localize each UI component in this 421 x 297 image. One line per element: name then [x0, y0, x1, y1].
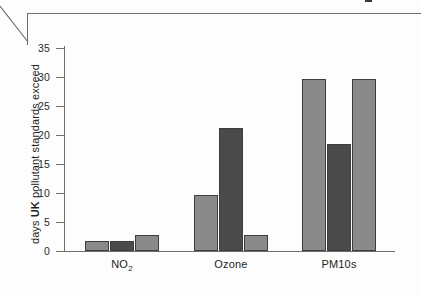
- bar-chart: days UK pollutant standards exceed 05101…: [0, 0, 421, 297]
- bar-group-pm10s: [302, 46, 377, 251]
- bar-ozone-series-1[interactable]: [194, 195, 218, 251]
- y-tick-label-20: 20: [10, 130, 50, 141]
- bar-ozone-series-2[interactable]: [219, 128, 243, 251]
- x-label-subscript: 2: [128, 264, 133, 273]
- bar-no2-series-2[interactable]: [110, 241, 134, 251]
- bar-ozone-series-3[interactable]: [244, 235, 268, 251]
- y-tick-label-10: 10: [10, 188, 50, 199]
- y-tick-label-30: 30: [10, 72, 50, 83]
- y-tick-0: [56, 251, 64, 252]
- x-label-ozone: Ozone: [181, 258, 281, 270]
- bar-pm10s-series-3[interactable]: [352, 79, 376, 251]
- bar-pm10s-series-1[interactable]: [302, 79, 326, 251]
- x-axis-line: [64, 251, 395, 252]
- y-tick-label-0: 0: [10, 246, 50, 257]
- y-tick-15: [56, 164, 64, 165]
- bar-pm10s-series-2[interactable]: [327, 144, 351, 251]
- x-label-pm10s: PM10s: [289, 258, 389, 270]
- bar-group-ozone: [194, 46, 269, 251]
- y-tick-30: [56, 77, 64, 78]
- bar-no2-series-3[interactable]: [135, 235, 159, 251]
- y-axis-title-bold: UK: [29, 201, 41, 217]
- y-tick-label-35: 35: [10, 43, 50, 54]
- y-tick-label-25: 25: [10, 101, 50, 112]
- y-tick-label-5: 5: [10, 217, 50, 228]
- y-tick-label-15: 15: [10, 159, 50, 170]
- x-label-no2: NO2: [72, 258, 172, 270]
- y-tick-10: [56, 193, 64, 194]
- figure-root: days UK pollutant standards exceed 05101…: [0, 0, 421, 297]
- y-tick-20: [56, 135, 64, 136]
- bar-group-no2: [85, 46, 160, 251]
- y-tick-35: [56, 48, 64, 49]
- plot-area: [64, 46, 395, 251]
- bar-no2-series-1[interactable]: [85, 241, 109, 251]
- y-tick-25: [56, 106, 64, 107]
- y-tick-5: [56, 222, 64, 223]
